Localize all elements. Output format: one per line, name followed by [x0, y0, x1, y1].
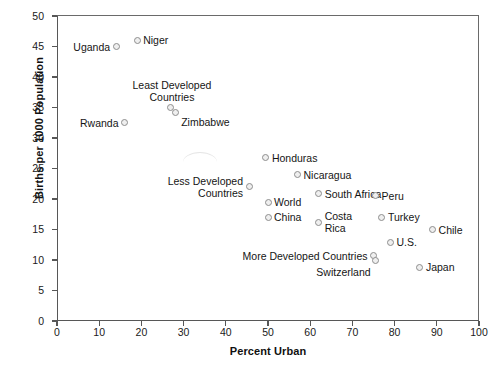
y-tick: [52, 168, 57, 169]
data-point-label: Honduras: [272, 152, 318, 164]
y-tick-label: 30: [0, 133, 44, 143]
data-point-label: Niger: [143, 34, 168, 46]
y-tick-label: 10: [0, 255, 44, 265]
data-point-label: Uganda: [73, 41, 110, 53]
data-point-label: Chile: [439, 224, 463, 236]
x-tick-label: 10: [79, 327, 119, 338]
y-tick: [52, 107, 57, 108]
data-point-label: Nicaragua: [304, 169, 352, 181]
plot-area: [57, 16, 479, 321]
data-point-marker: [372, 257, 379, 264]
y-tick: [52, 76, 57, 77]
data-point-marker: [172, 109, 179, 116]
x-tick-label: 50: [248, 327, 288, 338]
data-point-label: Peru: [382, 190, 404, 202]
data-point-label: Switzerland: [316, 266, 370, 278]
y-tick-label: 20: [0, 194, 44, 204]
data-point-label: China: [274, 211, 301, 223]
x-tick-label: 90: [417, 327, 457, 338]
y-tick: [52, 229, 57, 230]
data-point-label: Japan: [426, 261, 455, 273]
y-tick: [52, 15, 57, 16]
data-point-label: U.S.: [396, 236, 416, 248]
y-tick-label: 25: [0, 163, 44, 173]
x-tick-label: 40: [206, 327, 246, 338]
x-tick-label: 20: [121, 327, 161, 338]
x-tick-label: 0: [37, 327, 77, 338]
data-point-label: Costa Rica: [325, 210, 352, 234]
data-point-marker: [265, 199, 272, 206]
data-point-marker: [134, 37, 141, 44]
scatter-chart: Births per 1000 Population Percent Urban…: [0, 0, 497, 370]
data-point-label: More Developed Countries: [243, 250, 368, 262]
data-point-label: World: [274, 196, 301, 208]
x-tick-label: 80: [375, 327, 415, 338]
x-axis-title: Percent Urban: [57, 345, 479, 357]
y-tick: [52, 137, 57, 138]
y-tick-label: 40: [0, 72, 44, 82]
data-point-marker: [387, 239, 394, 246]
data-point-label: Turkey: [388, 211, 420, 223]
y-tick-label: 15: [0, 224, 44, 234]
x-tick-label: 100: [459, 327, 497, 338]
y-tick: [52, 46, 57, 47]
y-tick-label: 50: [0, 11, 44, 21]
y-tick: [52, 290, 57, 291]
y-tick: [52, 259, 57, 260]
data-point-marker: [113, 43, 120, 50]
data-point-label: Less Developed Countries: [168, 175, 243, 199]
data-point-marker: [246, 183, 253, 190]
data-point-marker: [265, 214, 272, 221]
data-point-marker: [315, 219, 322, 226]
y-tick-label: 0: [0, 316, 44, 326]
data-point-label: Zimbabwe: [181, 116, 229, 128]
data-point-label: Least Developed Countries: [133, 79, 212, 103]
x-tick-label: 70: [332, 327, 372, 338]
x-tick-label: 30: [164, 327, 204, 338]
y-tick-label: 5: [0, 285, 44, 295]
x-tick-label: 60: [290, 327, 330, 338]
y-tick-label: 45: [0, 41, 44, 51]
y-tick: [52, 198, 57, 199]
data-point-label: Rwanda: [80, 117, 119, 129]
y-tick-label: 35: [0, 102, 44, 112]
